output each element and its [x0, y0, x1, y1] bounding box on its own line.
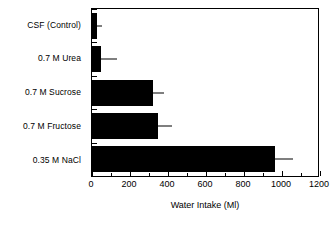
- category-label: 0.35 M NaCl: [0, 143, 86, 177]
- category-label: CSF (Control): [0, 8, 86, 42]
- x-axis-tick-label: 1200: [309, 180, 329, 189]
- bar-urea: [92, 46, 101, 72]
- x-axis-tick: [282, 171, 283, 176]
- x-axis-tick-label: 1000: [271, 180, 291, 189]
- x-axis-minor-tick: [263, 173, 264, 176]
- error-bar-sucrose: [153, 92, 164, 93]
- y-axis-tick: [92, 76, 97, 77]
- x-axis-minor-tick: [187, 173, 188, 176]
- error-bar-fructose: [158, 125, 172, 126]
- x-axis-title: Water Intake (Ml): [91, 201, 319, 210]
- y-axis-tick: [92, 143, 97, 144]
- x-axis-tick: [206, 171, 207, 176]
- plot-area: [91, 8, 319, 177]
- table-row: [92, 76, 318, 109]
- category-label: 0.7 M Urea: [0, 42, 86, 76]
- x-axis-tick: [244, 171, 245, 176]
- x-axis-tick-label: 0: [88, 180, 93, 189]
- x-axis-tick: [320, 171, 321, 176]
- x-axis-tick-label: 200: [121, 180, 136, 189]
- bar-sucrose: [92, 80, 153, 106]
- x-axis-minor-tick: [225, 173, 226, 176]
- x-axis-tick: [130, 171, 131, 176]
- x-axis-tick: [168, 171, 169, 176]
- category-axis-labels: CSF (Control) 0.7 M Urea 0.7 M Sucrose 0…: [0, 8, 86, 177]
- y-axis-tick: [92, 176, 97, 177]
- bar-nacl: [92, 146, 275, 172]
- error-bar-urea: [101, 59, 117, 60]
- y-axis-tick: [92, 109, 97, 110]
- category-label: 0.7 M Fructose: [0, 109, 86, 143]
- x-axis-tick-label: 600: [197, 180, 212, 189]
- x-axis-tick-label: 400: [159, 180, 174, 189]
- x-axis-minor-tick: [149, 173, 150, 176]
- x-axis-minor-tick: [301, 173, 302, 176]
- table-row: [92, 109, 318, 142]
- error-bar-nacl: [275, 159, 293, 160]
- y-axis-tick: [92, 9, 97, 10]
- table-row: [92, 42, 318, 75]
- category-label: 0.7 M Sucrose: [0, 76, 86, 110]
- x-axis-tick-labels: 020040060080010001200: [91, 180, 319, 192]
- error-bar-csf-control: [97, 25, 102, 26]
- bar-fructose: [92, 113, 158, 139]
- x-axis-tick-label: 800: [235, 180, 250, 189]
- y-axis-tick: [92, 42, 97, 43]
- x-axis-minor-tick: [111, 173, 112, 176]
- table-row: [92, 143, 318, 176]
- table-row: [92, 9, 318, 42]
- bar-chart-figure: CSF (Control) 0.7 M Urea 0.7 M Sucrose 0…: [0, 0, 335, 225]
- bar-rows: [92, 9, 318, 176]
